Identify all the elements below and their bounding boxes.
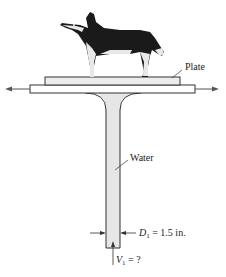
diameter-left-arrow-icon [90,231,106,235]
outflow-left-arrow-icon [5,87,30,92]
velocity-label: V1 = ? [116,254,141,267]
plate-label: Plate [185,61,206,72]
base-slab [30,85,195,93]
pipe-left-wall [85,93,106,248]
figure: Plate Water D1 = 1.5 in. V1 = ? [0,0,226,277]
water-region [88,93,140,248]
pipe-right-wall [120,93,141,248]
diameter-right-arrow-icon [120,231,136,235]
outflow-right-arrow-icon [195,87,219,92]
diameter-label: D1 = 1.5 in. [138,227,186,240]
dog-illustration [60,12,164,77]
plate [45,77,180,85]
water-label: Water [130,152,154,163]
diagram-svg: Plate Water D1 = 1.5 in. V1 = ? [0,0,226,277]
